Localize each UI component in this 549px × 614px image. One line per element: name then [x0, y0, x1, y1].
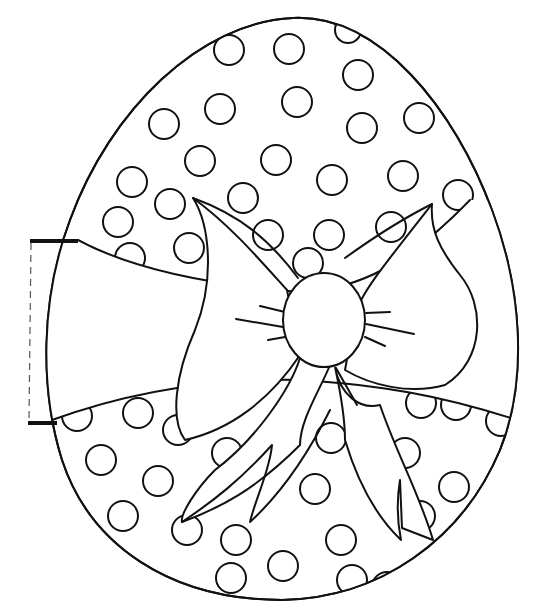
polka-dot	[86, 445, 116, 475]
polka-dot	[174, 233, 204, 263]
polka-dot	[221, 525, 251, 555]
bow-knot	[283, 273, 365, 367]
polka-dot	[108, 501, 138, 531]
polka-dot	[300, 474, 330, 504]
polka-dot	[155, 189, 185, 219]
polka-dot	[228, 183, 258, 213]
polka-dot	[347, 113, 377, 143]
polka-dot	[205, 94, 235, 124]
polka-dot	[123, 398, 153, 428]
polka-dot	[149, 109, 179, 139]
polka-dot	[261, 145, 291, 175]
polka-dot	[326, 525, 356, 555]
polka-dot	[404, 103, 434, 133]
polka-dot	[314, 220, 344, 250]
polka-dot	[388, 161, 418, 191]
polka-dot	[439, 472, 469, 502]
polka-dot	[185, 146, 215, 176]
polka-dot	[117, 167, 147, 197]
polka-dot	[343, 60, 373, 90]
polka-dot	[268, 551, 298, 581]
polka-dot	[143, 466, 173, 496]
coloring-page-canvas	[0, 0, 549, 614]
bow-crease-line	[366, 312, 390, 313]
polka-dot	[317, 165, 347, 195]
polka-dot	[216, 563, 246, 593]
polka-dot	[103, 207, 133, 237]
polka-dot	[282, 87, 312, 117]
polka-dot	[274, 34, 304, 64]
